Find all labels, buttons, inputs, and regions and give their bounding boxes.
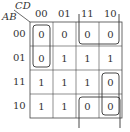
cell-00-01: 0	[53, 22, 76, 46]
cell-00-11: 0	[76, 22, 99, 46]
row-header-11: 11	[13, 77, 26, 87]
cell-01-11: 1	[76, 46, 99, 70]
col-var-label: CD	[15, 1, 31, 11]
row-var-label: AB	[2, 12, 17, 22]
col-header-11: 11	[81, 9, 94, 19]
col-header-01: 01	[58, 9, 71, 19]
cell-00-00: 0	[30, 22, 53, 46]
cell-11-01: 1	[53, 70, 76, 94]
cell-10-00: 1	[30, 94, 53, 118]
cell-11-11: 1	[76, 70, 99, 94]
row-header-00: 00	[13, 29, 26, 39]
cell-10-01: 1	[53, 94, 76, 118]
cell-11-00: 1	[30, 70, 53, 94]
col-header-00: 00	[35, 9, 48, 19]
cell-00-10: 0	[99, 22, 122, 46]
cell-10-10: 0	[99, 94, 122, 118]
row-header-10: 10	[13, 101, 26, 111]
cell-01-01: 1	[53, 46, 76, 70]
col-header-10: 10	[104, 9, 117, 19]
cell-01-00: 0	[30, 46, 53, 70]
cell-11-10: 0	[99, 70, 122, 94]
cell-01-10: 1	[99, 46, 122, 70]
cell-10-11: 0	[76, 94, 99, 118]
row-header-01: 01	[13, 53, 26, 63]
